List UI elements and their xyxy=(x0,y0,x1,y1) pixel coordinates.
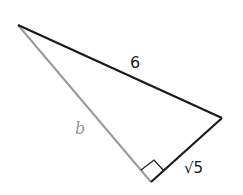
triangle-diagram: 6 b √5 xyxy=(0,0,243,195)
hypotenuse-label: 6 xyxy=(130,53,140,72)
right-angle-marker xyxy=(141,160,164,171)
hypotenuse xyxy=(18,25,222,118)
side-b xyxy=(18,25,151,182)
side-b-label: b xyxy=(75,119,85,138)
side-sqrt5-label: √5 xyxy=(184,159,203,177)
